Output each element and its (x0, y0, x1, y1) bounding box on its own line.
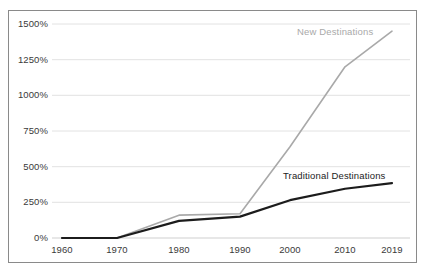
x-tick-label: 2000 (268, 244, 312, 255)
chart-plot-area (0, 0, 425, 274)
x-tick-label: 1980 (157, 244, 201, 255)
x-tick-label: 2010 (323, 244, 367, 255)
gridlines-group (52, 24, 410, 238)
series-annotation-traditional-destinations: Traditional Destinations (283, 170, 386, 181)
x-tick-label: 1960 (40, 244, 84, 255)
y-tick-label: 0% (0, 232, 48, 243)
line-series-traditional-destinations (62, 183, 392, 238)
y-tick-label: 1250% (0, 54, 48, 65)
x-tick-label: 1970 (95, 244, 139, 255)
x-tick-label: 2019 (370, 244, 414, 255)
y-tick-label: 500% (0, 161, 48, 172)
y-tick-label: 1500% (0, 18, 48, 29)
y-tick-label: 250% (0, 196, 48, 207)
y-tick-label: 1000% (0, 89, 48, 100)
series-annotation-new-destinations: New Destinations (297, 26, 373, 37)
line-series-new-destinations (62, 31, 392, 238)
x-tick-label: 1990 (218, 244, 262, 255)
y-tick-label: 750% (0, 125, 48, 136)
chart-container: 1500% 1250% 1000% 750% 500% 250% 0% 1960… (0, 0, 425, 274)
